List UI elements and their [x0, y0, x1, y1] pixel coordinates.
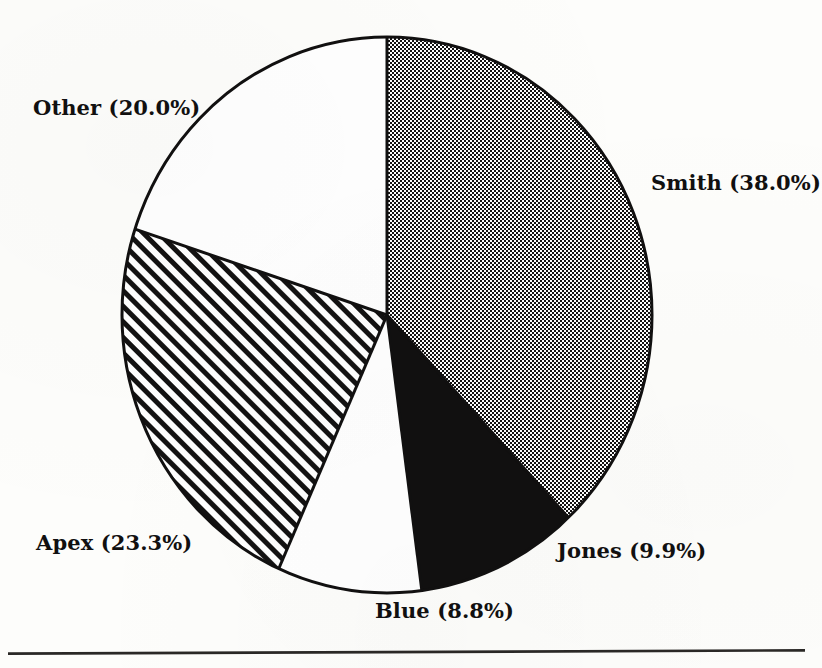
pie-label-apex: Apex (23.3%) [36, 530, 192, 555]
pie-label-blue: Blue (8.8%) [375, 598, 514, 623]
pie-label-jones: Jones (9.9%) [557, 538, 706, 563]
pie-label-smith: Smith (38.0%) [651, 170, 821, 195]
figure-page: Other (20.0%) Smith (38.0%) Apex (23.3%)… [0, 0, 822, 668]
pie-label-other: Other (20.0%) [33, 95, 200, 120]
footer-horizontal-rule [8, 648, 805, 656]
